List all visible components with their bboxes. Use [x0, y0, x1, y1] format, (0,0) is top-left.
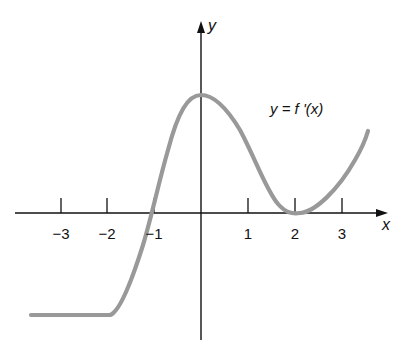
- tick-label-neg1: −1: [145, 225, 162, 242]
- y-axis-label: y: [207, 17, 217, 34]
- derivative-graph: −3 −2 −1 1 2 3 x y y = f '(x): [0, 0, 403, 354]
- tick-label-neg2: −2: [98, 225, 115, 242]
- tick-label-1: 1: [244, 225, 252, 242]
- y-axis-arrow-icon: [197, 21, 205, 33]
- x-axis-label: x: [381, 216, 391, 233]
- tick-label-3: 3: [338, 225, 346, 242]
- curve-f-prime: [31, 95, 368, 315]
- tick-label-2: 2: [291, 225, 299, 242]
- curve-annotation: y = f '(x): [269, 100, 323, 117]
- tick-label-neg3: −3: [52, 225, 69, 242]
